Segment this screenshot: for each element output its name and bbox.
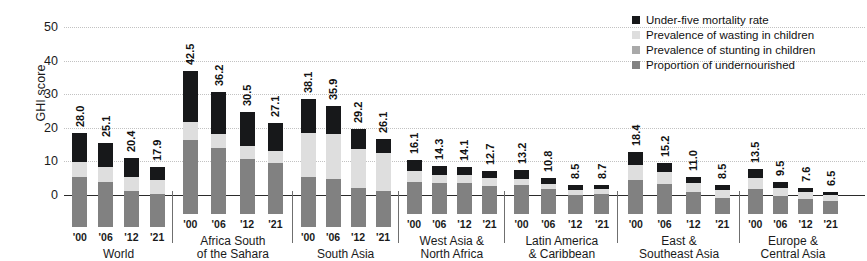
bar[interactable]: 20.4 (124, 59, 139, 227)
bar-value-label: 16.1 (408, 132, 420, 153)
bar[interactable]: 13.2 (514, 46, 529, 214)
group-label: Africa Southof the Sahara (173, 233, 293, 261)
group-label: South Asia (293, 246, 399, 261)
bar-segment-undernourished (482, 186, 497, 214)
bar-segment-mortality (376, 139, 391, 152)
year-tick-labels: '00'06'12'21 (740, 214, 847, 233)
legend-item-undernourished[interactable]: Proportion of undernourished (632, 57, 815, 72)
bar-group: 38.135.929.226.1'00'06'12'21South Asia (293, 0, 399, 261)
bar-value-label: 42.5 (184, 44, 196, 65)
stacked-bar (657, 163, 672, 214)
bar-segment-mortality (301, 99, 316, 133)
bar[interactable]: 16.1 (407, 46, 422, 214)
bar[interactable]: 28.0 (72, 59, 87, 227)
stacked-bar (686, 177, 701, 214)
bar-segment-undernourished (407, 182, 422, 214)
bar-value-label: 30.5 (241, 84, 253, 105)
bar-group: 13.210.88.58.7'00'06'12'21Latin America&… (505, 0, 618, 261)
x-axis-tick-12: '12 (562, 218, 589, 233)
legend-swatch-mortality (632, 16, 640, 24)
bar-segment-wasting (482, 178, 497, 186)
bar[interactable]: 12.7 (482, 46, 497, 214)
bar[interactable]: 17.9 (150, 59, 165, 227)
stacked-bar (407, 160, 422, 214)
bar-segment-undernourished (124, 191, 139, 227)
x-axis-tick-06: '06 (321, 231, 346, 246)
year-tick-labels: '00'06'12'21 (293, 227, 399, 246)
x-axis-tick-21: '21 (371, 231, 396, 246)
bar[interactable]: 25.1 (98, 59, 113, 227)
bar[interactable]: 14.1 (457, 46, 472, 214)
bar[interactable]: 30.5 (240, 46, 255, 214)
bar[interactable]: 26.1 (376, 59, 391, 227)
stacked-bar (715, 185, 730, 214)
bar-segment-mortality (628, 152, 643, 164)
bar-value-label: 20.4 (125, 131, 137, 152)
bar-segment-wasting (124, 177, 139, 192)
bar-segment-undernourished (541, 189, 556, 214)
bar[interactable]: 29.2 (351, 59, 366, 227)
x-axis-tick-21: '21 (818, 218, 843, 233)
bar-segment-mortality (326, 106, 341, 134)
bar[interactable]: 8.7 (594, 46, 609, 214)
bar-segment-mortality (240, 112, 255, 147)
x-axis-tick-06: '06 (650, 218, 679, 233)
bar-value-label: 13.5 (749, 141, 761, 162)
bar-segment-wasting (376, 153, 391, 191)
bar-segment-undernourished (211, 148, 226, 214)
bar-value-label: 26.1 (377, 112, 389, 133)
bar-segment-undernourished (514, 185, 529, 214)
bar[interactable]: 36.2 (211, 46, 226, 214)
stacked-bar (211, 92, 226, 214)
bar-segment-mortality (748, 169, 763, 179)
stacked-bar (432, 166, 447, 214)
group-label: World (64, 246, 173, 261)
bar-segment-mortality (351, 129, 366, 149)
year-tick-labels: '00'06'12'21 (173, 214, 293, 233)
bar-value-label: 36.2 (213, 65, 225, 86)
bar[interactable]: 10.8 (541, 46, 556, 214)
bar-segment-wasting (150, 180, 165, 194)
y-axis-tick-30: 30 (26, 87, 58, 101)
group-label-line: North Africa (399, 248, 506, 261)
bar[interactable]: 6.5 (823, 46, 838, 214)
bars: 16.114.314.112.7 (399, 46, 506, 214)
bar[interactable]: 14.3 (432, 46, 447, 214)
bar-value-label: 7.6 (800, 167, 812, 182)
bar[interactable]: 8.5 (568, 46, 583, 214)
legend-item-wasting[interactable]: Prevalence of wasting in children (632, 27, 815, 42)
x-axis-tick-06: '06 (204, 218, 232, 233)
x-axis-tick-06: '06 (93, 231, 119, 246)
bar[interactable]: 38.1 (301, 59, 316, 227)
bar-value-label: 13.2 (516, 142, 528, 163)
stacked-bar (326, 106, 341, 227)
bar[interactable]: 27.1 (268, 46, 283, 214)
legend-item-stunting[interactable]: Prevalence of stunting in children (632, 42, 815, 57)
y-axis-tick-20: 20 (26, 121, 58, 135)
bar-segment-wasting (351, 149, 366, 188)
bar-segment-undernourished (301, 177, 316, 227)
legend-item-mortality[interactable]: Under-five mortality rate (632, 12, 815, 27)
bar-segment-wasting (72, 162, 87, 177)
x-axis-tick-06: '06 (768, 218, 793, 233)
bar-segment-wasting (457, 175, 472, 183)
bar[interactable]: 42.5 (183, 46, 198, 214)
bar-segment-wasting (686, 183, 701, 192)
bar-segment-mortality (72, 133, 87, 162)
legend-label: Prevalence of stunting in children (646, 44, 815, 56)
x-axis-tick-06: '06 (535, 218, 562, 233)
x-axis-tick-21: '21 (261, 218, 289, 233)
bar[interactable]: 35.9 (326, 59, 341, 227)
bar-value-label: 28.0 (74, 106, 86, 127)
bar-segment-undernourished (457, 183, 472, 214)
year-tick-labels: '00'06'12'21 (505, 214, 618, 233)
bar-segment-undernourished (432, 183, 447, 214)
stacked-bar (124, 158, 139, 227)
group-label-line: South Asia (293, 248, 399, 261)
bar-segment-mortality (432, 166, 447, 175)
bar-segment-undernourished (326, 179, 341, 227)
stacked-bar (514, 170, 529, 214)
bar-segment-mortality (407, 160, 422, 171)
bar-value-label: 29.2 (352, 101, 364, 122)
bar-segment-mortality (482, 171, 497, 178)
